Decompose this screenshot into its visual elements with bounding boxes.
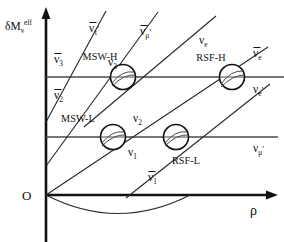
- axis-labels-group: δMνeff ρ O: [5, 18, 257, 218]
- branch-label-prime-nu-e-prime: ′: [261, 85, 263, 95]
- crossing-rsf-h: [220, 65, 245, 90]
- origin-label: O: [22, 188, 31, 203]
- branch-label-nu-e: νe: [199, 34, 208, 49]
- branch-label-nubar-3: ν3: [54, 53, 63, 68]
- nu1-parabola-group: [46, 195, 190, 214]
- branch-label-sub-nu-3: 3: [113, 62, 117, 71]
- y-axis-arrowhead: [42, 7, 51, 19]
- x-axis-arrowhead: [266, 191, 278, 200]
- branch-nu1-parabola: [46, 195, 190, 214]
- label-msw-l: MSW-L: [61, 113, 95, 124]
- branch-label-text-nu-e: νe: [199, 34, 208, 49]
- branch-label-nubar-1: ν1: [148, 171, 157, 186]
- branch-labels-group: ντ′νμ′ν3ν3νeνeνe′ν2ν2ν1ν1νμ′: [54, 22, 264, 186]
- branch-label-sub-nubar-e: e: [258, 53, 262, 62]
- label-rsf-l: RSF-L: [172, 155, 200, 166]
- neutrino-level-crossing-figure: δMνeff ρ O MSW-H RSF-H MSW-L RSF-L ντ′νμ…: [0, 0, 284, 242]
- branch-label-nu-mu-prime: νμ′: [253, 142, 264, 157]
- y-axis-label-sub: ν: [21, 26, 25, 35]
- crossing-rsf-l: [164, 125, 189, 150]
- branch-label-text-nubar-tau-prime: ντ′: [89, 22, 99, 37]
- branch-label-prime-nubar-tau-prime: ′: [97, 24, 99, 34]
- branch-label-sub-nu-2: 2: [138, 118, 142, 127]
- diagram-canvas: δMνeff ρ O MSW-H RSF-H MSW-L RSF-L ντ′νμ…: [0, 0, 284, 242]
- branch-label-nubar-tau-prime: ντ′: [89, 22, 99, 37]
- branch-label-sub-nubar-1: 1: [153, 177, 157, 186]
- y-axis-label-sup: eff: [24, 18, 33, 27]
- y-axis-label-main: δM: [5, 20, 21, 32]
- branch-label-nubar-e: νe: [253, 47, 262, 62]
- branch-label-text-nubar-3: ν3: [54, 53, 63, 68]
- branch-label-nu-2: ν2: [133, 112, 142, 127]
- resonance-labels-group: MSW-H RSF-H MSW-L RSF-L: [61, 51, 226, 166]
- branch-label-text-nubar-2: ν2: [54, 89, 63, 104]
- branch-label-sub-nu-1: 1: [133, 152, 137, 161]
- resonance-levels-group: [46, 77, 284, 137]
- branch-label-sub-nubar-2: 2: [59, 95, 63, 104]
- x-axis-label: ρ: [250, 203, 257, 218]
- antineutrino-branches-group: [46, 11, 268, 195]
- branch-label-text-nubar-1: ν1: [148, 171, 157, 186]
- branch-label-text-nu-1: ν1: [128, 146, 137, 161]
- branch-label-nubar-mu-prime: νμ′: [140, 25, 151, 40]
- branch-label-sub-nubar-3: 3: [59, 59, 63, 68]
- branch-label-text-nu-mu-prime: νμ′: [253, 142, 264, 157]
- crossing-msw-l: [101, 125, 126, 150]
- branch-label-nubar-2: ν2: [54, 89, 63, 104]
- branch-label-text-nubar-mu-prime: νμ′: [140, 25, 151, 40]
- branch-label-prime-nu-mu-prime: ′: [262, 144, 264, 154]
- label-rsf-h: RSF-H: [196, 52, 226, 63]
- branch-label-prime-nubar-mu-prime: ′: [149, 27, 151, 37]
- branch-label-text-nu-2: ν2: [133, 112, 142, 127]
- branch-label-text-nubar-e: νe: [253, 47, 262, 62]
- branch-label-sub-nu-e: e: [204, 40, 208, 49]
- branch-label-nu-1: ν1: [128, 146, 137, 161]
- y-axis-label: δMνeff: [5, 18, 33, 35]
